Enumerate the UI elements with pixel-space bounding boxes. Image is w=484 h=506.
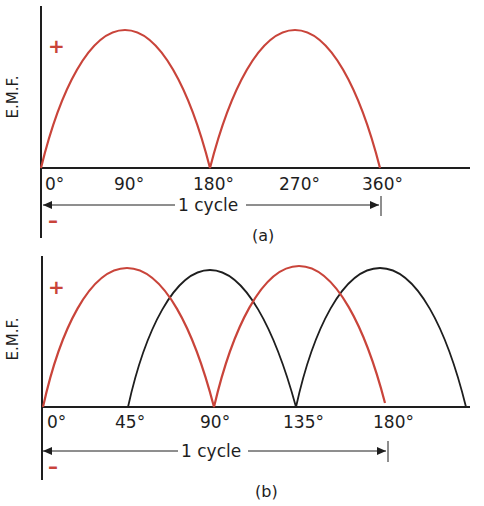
panel-a-cycle-label: 1 cycle [178, 197, 238, 214]
panel-a-tick-360: 360° [362, 176, 403, 193]
panel-b-tick-0: 0° [47, 414, 66, 431]
panel-b-minus-sign: – [48, 456, 58, 476]
panel-b-arrow-right-icon [377, 447, 386, 455]
panel-a-tick-0: 0° [45, 176, 64, 193]
panel-a-y-label: E.M.F. [4, 76, 22, 119]
panel-a-plus-sign: + [48, 36, 65, 56]
panel-a-arrow-right-icon [370, 201, 379, 209]
panel-a-red-curve [41, 30, 380, 168]
panel-b-red-curve [43, 266, 385, 407]
panel-b-tick-180: 180° [373, 414, 414, 431]
panel-b-cycle-label: 1 cycle [181, 443, 241, 460]
panel-b-plus-sign: + [48, 277, 65, 297]
panel-a-tick-180: 180° [193, 176, 234, 193]
panel-b-tick-90: 90° [200, 414, 230, 431]
panel-b-black-curve [128, 268, 466, 407]
panel-b-tick-135: 135° [283, 414, 324, 431]
panel-a-tick-270: 270° [279, 176, 320, 193]
panel-a-tick-90: 90° [114, 176, 144, 193]
panel-a-caption: (a) [252, 226, 274, 245]
panel-b-caption: (b) [255, 482, 278, 501]
panel-b-y-label: E.M.F. [4, 318, 22, 361]
panel-a-minus-sign: – [48, 210, 58, 230]
panel-b-tick-45: 45° [115, 414, 145, 431]
